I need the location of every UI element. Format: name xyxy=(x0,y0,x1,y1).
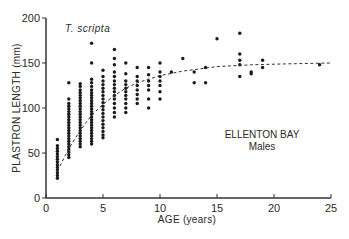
data-point xyxy=(124,61,127,64)
data-point xyxy=(101,94,104,97)
data-point xyxy=(124,106,127,109)
data-point xyxy=(158,70,161,73)
data-point xyxy=(136,88,139,91)
data-point xyxy=(101,90,104,93)
data-point xyxy=(238,75,241,78)
data-point xyxy=(113,111,116,114)
data-point xyxy=(90,78,93,81)
data-point xyxy=(124,111,127,114)
x-tick-label: 0 xyxy=(43,202,49,214)
data-point xyxy=(113,75,116,78)
group-label: Males xyxy=(249,141,276,152)
x-tick-label: 5 xyxy=(100,202,106,214)
data-point xyxy=(79,82,82,85)
data-point xyxy=(238,59,241,62)
data-point xyxy=(136,66,139,69)
x-tick-label: 25 xyxy=(325,202,337,214)
data-point xyxy=(79,88,82,91)
scatter-points xyxy=(56,32,322,180)
data-point xyxy=(101,75,104,78)
data-point xyxy=(147,106,150,109)
data-point xyxy=(101,108,104,111)
x-ticks: 0510152025 xyxy=(43,194,337,214)
data-point xyxy=(101,115,104,118)
data-point xyxy=(136,102,139,105)
data-point xyxy=(181,57,184,60)
data-point xyxy=(124,97,127,100)
data-point xyxy=(101,87,104,90)
data-point xyxy=(124,102,127,105)
data-point xyxy=(113,97,116,100)
data-point xyxy=(113,70,116,73)
data-point xyxy=(204,81,207,84)
data-point xyxy=(101,97,104,100)
data-point xyxy=(90,81,93,84)
y-tick-label: 100 xyxy=(22,102,40,114)
data-point xyxy=(113,83,116,86)
data-point xyxy=(90,85,93,88)
data-point xyxy=(193,81,196,84)
data-point xyxy=(250,70,253,73)
data-point xyxy=(158,90,161,93)
data-point xyxy=(101,79,104,82)
y-ticks: 050100150200 xyxy=(22,12,46,204)
data-point xyxy=(158,79,161,82)
data-point xyxy=(90,42,93,45)
fitted-curve xyxy=(57,63,331,171)
x-tick-label: 15 xyxy=(211,202,223,214)
data-point xyxy=(124,83,127,86)
data-point xyxy=(101,119,104,122)
data-point xyxy=(147,73,150,76)
data-point xyxy=(261,59,264,62)
data-point xyxy=(113,63,116,66)
data-point xyxy=(90,88,93,91)
data-point xyxy=(124,79,127,82)
data-point xyxy=(158,61,161,64)
y-tick-label: 50 xyxy=(28,147,40,159)
y-tick-label: 150 xyxy=(22,57,40,69)
x-tick-label: 10 xyxy=(154,202,166,214)
species-label: T. scripta xyxy=(65,23,110,34)
data-point xyxy=(113,87,116,90)
data-point xyxy=(136,97,139,100)
data-point xyxy=(124,72,127,75)
data-point xyxy=(136,84,139,87)
data-point xyxy=(67,97,70,100)
y-tick-label: 0 xyxy=(34,192,40,204)
data-point xyxy=(113,115,116,118)
location-label: ELLENTON BAY xyxy=(225,129,300,140)
data-point xyxy=(113,79,116,82)
data-point xyxy=(147,84,150,87)
data-point xyxy=(101,83,104,86)
data-point xyxy=(193,70,196,73)
data-point xyxy=(101,69,104,72)
data-point xyxy=(215,37,218,40)
x-tick-label: 20 xyxy=(268,202,280,214)
data-point xyxy=(124,90,127,93)
data-point xyxy=(101,130,104,133)
data-point xyxy=(136,75,139,78)
data-point xyxy=(101,133,104,136)
data-point xyxy=(101,112,104,115)
y-tick-label: 200 xyxy=(22,12,40,24)
data-point xyxy=(147,97,150,100)
data-point xyxy=(147,88,150,91)
data-point xyxy=(113,57,116,60)
data-point xyxy=(136,93,139,96)
data-point xyxy=(101,126,104,129)
data-point xyxy=(56,138,59,141)
data-point xyxy=(238,63,241,66)
data-point xyxy=(113,48,116,51)
x-axis-title: AGE (years) xyxy=(158,214,216,225)
y-axis-title: PLASTRON LENGTH (mm) xyxy=(11,43,22,172)
data-point xyxy=(238,52,241,55)
data-point xyxy=(124,87,127,90)
data-point xyxy=(124,94,127,97)
data-point xyxy=(90,61,93,64)
data-point xyxy=(261,66,264,69)
data-point xyxy=(101,123,104,126)
data-point xyxy=(67,81,70,84)
data-point xyxy=(113,106,116,109)
data-point xyxy=(113,102,116,105)
data-point xyxy=(158,84,161,87)
